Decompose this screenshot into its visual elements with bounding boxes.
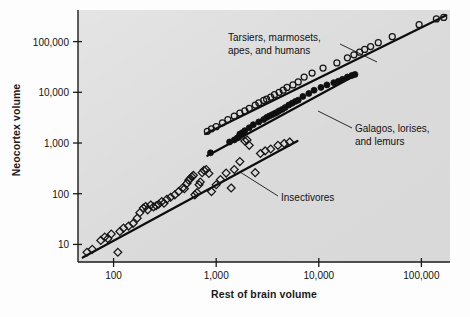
- anthropoids-label: Tarsiers, marmosets,apes, and humans: [228, 32, 321, 57]
- x-tick-label: 1,000: [204, 270, 229, 281]
- annotation-text-line: Insectivores: [281, 192, 334, 205]
- x-tick-label: 100: [105, 270, 122, 281]
- y-tick-label: 10,000: [0, 87, 69, 98]
- data-point-filled-circle: [250, 122, 256, 128]
- x-tick-label: 100,000: [403, 270, 439, 281]
- figure-container: Neocortex volume Rest of brain volume 10…: [0, 0, 470, 317]
- data-point-filled-circle: [352, 71, 358, 77]
- annotation-text-line: apes, and humans: [228, 45, 321, 58]
- y-tick-label: 1,000: [0, 138, 69, 149]
- strepsirrhines-label: Galagos, lorises,and lemurs: [355, 123, 429, 148]
- data-point-filled-circle: [324, 82, 330, 88]
- data-point-filled-circle: [300, 93, 306, 99]
- data-point-filled-circle: [311, 87, 317, 93]
- x-tick-label: 10,000: [303, 270, 334, 281]
- annotation-text-line: Galagos, lorises,: [355, 123, 429, 136]
- insectivores-label: Insectivores: [281, 192, 334, 205]
- annotation-text-line: Tarsiers, marmosets,: [228, 32, 321, 45]
- y-tick-label: 100,000: [0, 36, 69, 47]
- data-point-filled-circle: [318, 84, 324, 90]
- y-tick-label: 100: [0, 188, 69, 199]
- y-tick-label: 10: [0, 239, 69, 250]
- annotation-text-line: and lemurs: [355, 136, 429, 149]
- data-point-filled-circle: [207, 150, 213, 156]
